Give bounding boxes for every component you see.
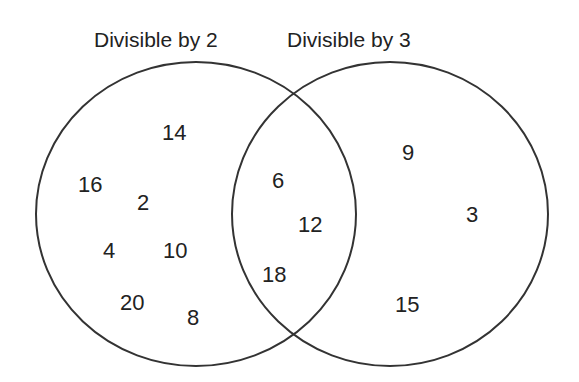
- right-only-number: 3: [466, 202, 478, 228]
- intersection-number: 12: [298, 212, 322, 238]
- right-only-number: 9: [402, 140, 414, 166]
- left-only-number: 16: [78, 172, 102, 198]
- left-only-number: 20: [120, 290, 144, 316]
- label-divisible-by-2: Divisible by 2: [94, 28, 218, 52]
- left-only-number: 10: [163, 238, 187, 264]
- left-only-number: 2: [137, 190, 149, 216]
- right-only-number: 15: [395, 292, 419, 318]
- circle-divisible-by-3: [232, 62, 548, 366]
- intersection-number: 18: [262, 262, 286, 288]
- left-only-number: 8: [187, 305, 199, 331]
- label-divisible-by-3: Divisible by 3: [287, 28, 411, 52]
- left-only-number: 14: [162, 120, 186, 146]
- intersection-number: 6: [272, 168, 284, 194]
- left-only-number: 4: [103, 238, 115, 264]
